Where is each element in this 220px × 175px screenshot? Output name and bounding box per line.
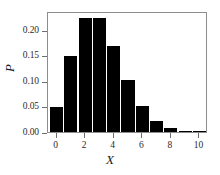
bar (50, 107, 63, 132)
x-axis-tick (198, 133, 199, 138)
bar (107, 46, 120, 132)
x-axis-tick (84, 133, 85, 138)
y-axis-title: P (2, 64, 18, 72)
y-axis-tick (42, 107, 47, 108)
y-axis-tick (42, 31, 47, 32)
bar (121, 80, 134, 132)
plot-frame (47, 12, 207, 133)
x-axis-tick (56, 133, 57, 138)
x-axis-tick (170, 133, 171, 138)
y-axis-tick-label: 0.05 (23, 101, 39, 111)
y-axis-tick-label: 0.15 (23, 50, 39, 60)
y-axis-tick-label: 0.00 (23, 127, 39, 137)
x-axis-tick (141, 133, 142, 138)
y-axis-tick (42, 56, 47, 57)
x-axis-tick (113, 133, 114, 138)
probability-distribution-chart: 0.000.050.100.150.20 0246810 P X (0, 0, 220, 175)
y-axis-tick (42, 133, 47, 134)
x-axis-tick-label: 0 (44, 140, 68, 150)
bar (150, 121, 163, 132)
bar (193, 131, 206, 132)
plot-area (48, 13, 206, 132)
x-axis-tick-label: 8 (158, 140, 182, 150)
y-axis-tick-label: 0.10 (23, 76, 39, 86)
x-axis-tick-label: 6 (129, 140, 153, 150)
x-axis-tick-label: 2 (72, 140, 96, 150)
x-axis-title: X (0, 152, 220, 168)
x-axis-tick-label: 10 (186, 140, 210, 150)
bar (79, 18, 92, 132)
bar (164, 128, 177, 132)
bar (93, 18, 106, 132)
x-axis-tick-label: 4 (101, 140, 125, 150)
bar (64, 56, 77, 132)
bar (136, 106, 149, 132)
bar (179, 131, 192, 132)
y-axis-tick-label: 0.20 (23, 25, 39, 35)
y-axis-tick (42, 82, 47, 83)
